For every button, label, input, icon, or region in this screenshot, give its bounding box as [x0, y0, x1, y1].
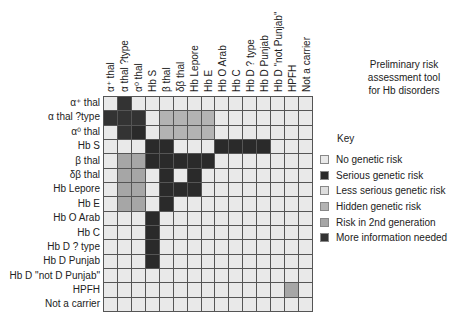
matrix-cell: [299, 140, 312, 153]
column-header-label: β thal: [161, 67, 173, 92]
row-label: Hb E: [0, 197, 100, 211]
matrix-cell: [285, 226, 298, 239]
matrix-cell: [202, 197, 215, 210]
matrix-cell: [118, 298, 131, 311]
matrix-cell: [160, 126, 173, 139]
matrix-cell: [215, 126, 228, 139]
column-header-label: Hb D "not Punjab": [273, 12, 285, 92]
matrix-cell: [146, 283, 159, 296]
matrix-cell: [174, 197, 187, 210]
matrix-cell: [104, 183, 117, 196]
matrix-cell: [118, 226, 131, 239]
matrix-cell: [271, 212, 284, 225]
matrix-cell: [285, 140, 298, 153]
title-line: for Hb disorders: [352, 84, 456, 97]
key-item-label: Risk in 2nd generation: [336, 217, 436, 228]
matrix-cell: [188, 111, 201, 124]
key-legend: No genetic riskSerious genetic riskLess …: [320, 152, 447, 246]
matrix-cell: [243, 226, 256, 239]
title-line: assessment tool: [352, 71, 456, 84]
matrix-cell: [243, 183, 256, 196]
matrix-cell: [215, 240, 228, 253]
matrix-cell: [174, 111, 187, 124]
matrix-cell: [104, 269, 117, 282]
column-header: δβ thal: [173, 0, 187, 92]
row-label: HPFH: [0, 283, 100, 297]
matrix-cell: [229, 269, 242, 282]
matrix-cell: [174, 183, 187, 196]
matrix-cell: [202, 140, 215, 153]
matrix-cell: [229, 226, 242, 239]
column-header: α thal ?type: [117, 0, 131, 92]
matrix-cell: [104, 154, 117, 167]
matrix-cell: [104, 126, 117, 139]
matrix-cell: [299, 197, 312, 210]
key-item-label: More information needed: [336, 232, 447, 243]
matrix-cell: [257, 97, 270, 110]
matrix-cell: [271, 283, 284, 296]
row-label: Hb Lepore: [0, 182, 100, 196]
matrix-cell: [132, 255, 145, 268]
matrix-cell: [174, 255, 187, 268]
matrix-cell: [271, 140, 284, 153]
key-item-more: More information needed: [320, 230, 447, 246]
matrix-cell: [160, 97, 173, 110]
matrix-cell: [146, 126, 159, 139]
matrix-cell: [104, 283, 117, 296]
matrix-cell: [132, 97, 145, 110]
matrix-cell: [174, 226, 187, 239]
row-label: α⁺ thal: [0, 96, 100, 110]
matrix-cell: [285, 111, 298, 124]
matrix-cell: [104, 197, 117, 210]
column-header: Hb Lepore: [187, 0, 201, 92]
column-header-label: Hb C: [231, 69, 243, 92]
matrix-cell: [271, 197, 284, 210]
matrix-cell: [146, 140, 159, 153]
row-label: β thal: [0, 154, 100, 168]
matrix-cell: [202, 226, 215, 239]
matrix-cell: [174, 140, 187, 153]
matrix-cell: [146, 111, 159, 124]
matrix-cell: [104, 226, 117, 239]
matrix-cell: [146, 183, 159, 196]
matrix-cell: [188, 255, 201, 268]
matrix-cell: [202, 212, 215, 225]
matrix-cell: [299, 183, 312, 196]
matrix-cell: [160, 240, 173, 253]
matrix-cell: [257, 298, 270, 311]
key-item-serious: Serious genetic risk: [320, 168, 447, 184]
matrix-cell: [215, 97, 228, 110]
matrix-cell: [285, 126, 298, 139]
matrix-cell: [243, 240, 256, 253]
matrix-cell: [285, 212, 298, 225]
matrix-cell: [257, 183, 270, 196]
swatch-icon: [320, 171, 329, 180]
matrix-cell: [174, 126, 187, 139]
matrix-cell: [243, 126, 256, 139]
matrix-cell: [188, 226, 201, 239]
matrix-cell: [202, 183, 215, 196]
matrix-cell: [229, 154, 242, 167]
matrix-cell: [118, 154, 131, 167]
matrix-cell: [118, 212, 131, 225]
key-item-hidden: Hidden genetic risk: [320, 199, 447, 215]
matrix-cell: [229, 111, 242, 124]
matrix-cell: [257, 154, 270, 167]
matrix-cell: [257, 111, 270, 124]
matrix-cell: [271, 226, 284, 239]
matrix-cell: [243, 97, 256, 110]
matrix-cell: [202, 111, 215, 124]
matrix-cell: [146, 169, 159, 182]
matrix-cell: [202, 97, 215, 110]
matrix-cell: [243, 111, 256, 124]
matrix-cell: [202, 126, 215, 139]
matrix-cell: [146, 197, 159, 210]
matrix-cell: [243, 154, 256, 167]
row-label: δβ thal: [0, 168, 100, 182]
matrix-cell: [160, 269, 173, 282]
key-item-none: No genetic risk: [320, 152, 447, 168]
matrix-cell: [229, 298, 242, 311]
matrix-cell: [146, 240, 159, 253]
column-header-label: Hb S: [147, 70, 159, 92]
matrix-cell: [243, 283, 256, 296]
